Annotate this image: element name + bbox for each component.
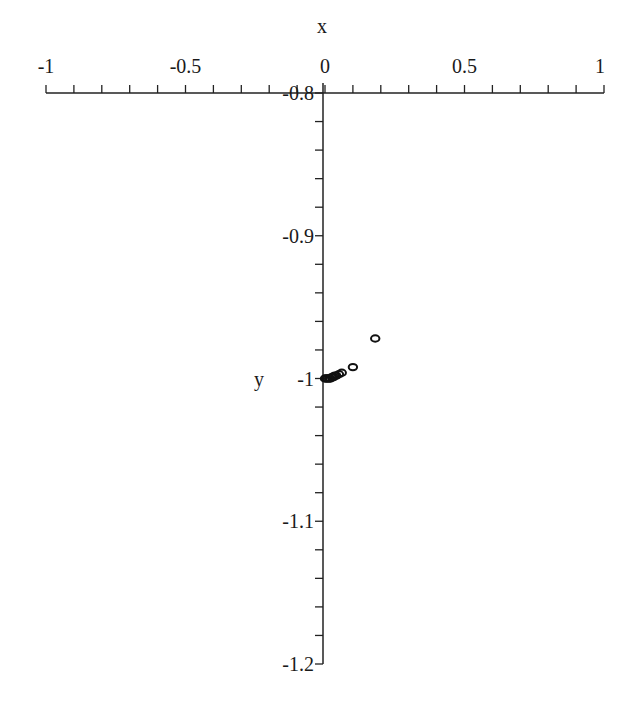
y-tick-label: -1.1 — [282, 510, 314, 532]
data-points — [321, 335, 380, 381]
y-tick-label: -1.2 — [282, 653, 314, 675]
y-axis: -0.8-0.9-1-1.1-1.2 — [282, 82, 323, 675]
y-tick-label: -0.8 — [282, 82, 314, 104]
x-axis-label: x — [317, 15, 327, 37]
y-axis-label: y — [254, 368, 264, 391]
x-tick-label: 0 — [320, 55, 330, 77]
data-point — [371, 335, 379, 341]
data-point — [349, 364, 357, 370]
scatter-plot: -1-0.500.51 -0.8-0.9-1-1.1-1.2 x y — [0, 0, 631, 705]
x-tick-label: -1 — [38, 55, 55, 77]
x-tick-label: 0.5 — [452, 55, 477, 77]
y-tick-label: -1 — [297, 368, 314, 390]
x-tick-label: -0.5 — [170, 55, 202, 77]
x-tick-label: 1 — [595, 55, 605, 77]
y-tick-label: -0.9 — [282, 225, 314, 247]
x-axis: -1-0.500.51 — [38, 55, 605, 93]
